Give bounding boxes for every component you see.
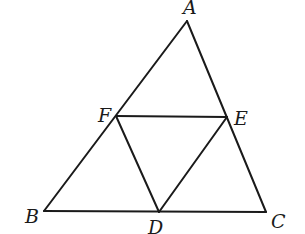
segment-de bbox=[159, 117, 227, 212]
label-d: D bbox=[147, 216, 163, 234]
segment-fe bbox=[116, 116, 227, 117]
triangle-diagram: A B C D E F bbox=[0, 0, 305, 234]
label-b: B bbox=[24, 205, 39, 227]
label-a: A bbox=[181, 0, 197, 18]
segment-fd bbox=[116, 116, 159, 212]
segments bbox=[44, 21, 266, 212]
label-f: F bbox=[97, 104, 112, 126]
label-e: E bbox=[233, 107, 248, 129]
label-c: C bbox=[271, 210, 286, 232]
segment-bc bbox=[44, 211, 266, 212]
